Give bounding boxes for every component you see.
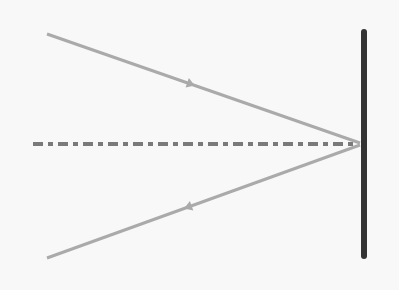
reflection-diagram <box>0 0 399 290</box>
